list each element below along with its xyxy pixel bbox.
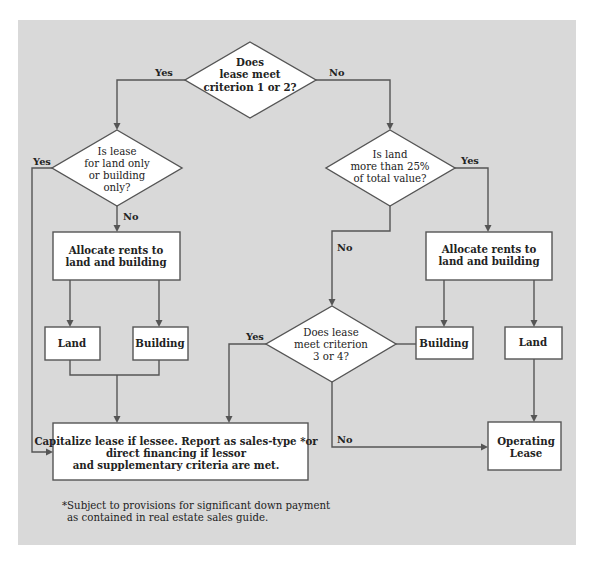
- process-text-line: Land: [58, 337, 86, 349]
- process-building-right: Building: [416, 327, 473, 359]
- process-text-line: Building: [419, 337, 468, 349]
- footnote-line: *Subject to provisions for significant d…: [62, 500, 331, 511]
- terminal-operating-lease: Operating Lease: [488, 422, 561, 470]
- decision-text-line: for land only: [84, 158, 150, 169]
- edge-label-d3-yes: Yes: [460, 155, 479, 166]
- terminal-text-line: and supplementary criteria are met.: [73, 459, 280, 471]
- terminal-capitalize-lease: Capitalize lease if lessee. Report as sa…: [34, 423, 318, 480]
- edge-label-d1-no: No: [329, 67, 345, 78]
- decision-text-line: more than 25%: [350, 161, 429, 172]
- edge-label-d4-yes: Yes: [245, 331, 264, 342]
- decision-text-line: Does: [236, 56, 264, 68]
- terminal-text-line: Operating: [497, 435, 555, 447]
- process-text-line: land and building: [65, 256, 166, 268]
- edge-label-d3-no: No: [337, 242, 353, 253]
- process-text-line: Building: [135, 337, 184, 349]
- decision-text-line: of total value?: [353, 173, 426, 184]
- decision-text-line: criterion 1 or 2?: [203, 81, 296, 93]
- decision-text-line: only?: [103, 182, 130, 193]
- terminal-text-line: Capitalize lease if lessee. Report as sa…: [34, 435, 318, 447]
- decision-text-line: Is lease: [97, 146, 136, 157]
- process-text-line: Allocate rents to: [441, 243, 537, 255]
- decision-text-line: Does lease: [303, 327, 358, 338]
- decision-text-line: Is land: [373, 149, 408, 160]
- decision-text-line: or building: [89, 170, 146, 181]
- process-text-line: Land: [519, 336, 547, 348]
- lease-classification-flowchart: Yes No Yes No Yes No Yes No Does lease m…: [0, 0, 596, 567]
- terminal-text-line: direct financing if lessor: [106, 447, 247, 459]
- process-allocate-rents-right: Allocate rents to land and building: [426, 232, 552, 280]
- terminal-text-line: Lease: [510, 447, 543, 459]
- decision-text-line: 3 or 4?: [313, 351, 349, 362]
- process-allocate-rents-left: Allocate rents to land and building: [53, 232, 180, 280]
- process-land-left: Land: [45, 327, 100, 360]
- process-text-line: Allocate rents to: [68, 244, 164, 256]
- edge-label-d1-yes: Yes: [154, 67, 173, 78]
- process-text-line: land and building: [438, 255, 539, 267]
- edge-label-d4-no: No: [337, 434, 353, 445]
- edge-label-d2-yes: Yes: [32, 156, 51, 167]
- process-land-right: Land: [505, 327, 562, 359]
- footnote-line: as contained in real estate sales guide.: [67, 512, 268, 523]
- process-building-left: Building: [133, 327, 188, 360]
- decision-text-line: meet criterion: [294, 339, 368, 350]
- decision-text-line: lease meet: [219, 68, 280, 80]
- edge-label-d2-no: No: [123, 211, 139, 222]
